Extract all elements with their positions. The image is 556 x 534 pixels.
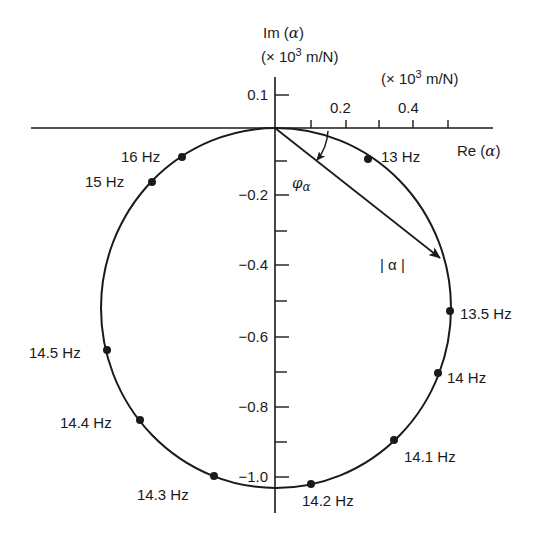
label-14-5hz: 14.5 Hz	[29, 344, 81, 361]
label-15hz: 15 Hz	[85, 173, 124, 190]
label-14-2hz: 14.2 Hz	[302, 492, 354, 509]
point-14-1hz	[390, 436, 398, 444]
label-13-5hz: 13.5 Hz	[460, 305, 512, 322]
y-tick-label-0.1: 0.1	[247, 86, 268, 103]
x-axis-title: Re (α)	[457, 142, 500, 160]
x-ticks	[311, 120, 448, 128]
y-tick-label-m0.4: −0.4	[238, 256, 268, 273]
point-14-2hz	[307, 480, 315, 488]
x-tick-label-0.2: 0.2	[330, 99, 351, 116]
y-tick-label-m0.2: −0.2	[238, 186, 268, 203]
y-ticks	[275, 95, 289, 477]
label-14hz: 14 Hz	[447, 369, 486, 386]
y-axis-title: Im (α)	[263, 24, 304, 42]
y-tick-label-m0.8: −0.8	[238, 398, 268, 415]
label-14-3hz: 14.3 Hz	[137, 486, 189, 503]
label-16hz: 16 Hz	[121, 148, 160, 165]
x-tick-label-0.4: 0.4	[398, 99, 419, 116]
nyquist-chart: 0.2 0.4 0.1 −0.2 −0.4 −0.6 −0.8 −1.0 Im …	[0, 0, 556, 534]
label-14-1hz: 14.1 Hz	[404, 448, 456, 465]
point-13-5hz	[446, 307, 454, 315]
point-14-3hz	[210, 472, 218, 480]
y-tick-label-m1.0: −1.0	[238, 468, 268, 485]
point-14-4hz	[136, 416, 144, 424]
point-16hz	[178, 153, 186, 161]
magnitude-label: | α |	[380, 256, 405, 273]
point-14-5hz	[103, 346, 111, 354]
label-14-4hz: 14.4 Hz	[60, 414, 112, 431]
point-15hz	[148, 178, 156, 186]
x-axis-unit: (× 103 m/N)	[381, 68, 458, 87]
phase-label: φα	[292, 174, 311, 194]
y-tick-label-m0.6: −0.6	[238, 328, 268, 345]
point-13hz	[364, 155, 372, 163]
point-14hz	[434, 369, 442, 377]
y-axis-unit: (× 103 m/N)	[261, 46, 338, 65]
label-13hz: 13 Hz	[381, 148, 420, 165]
